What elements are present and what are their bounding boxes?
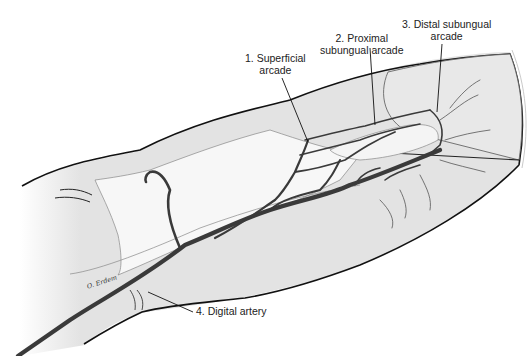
label-digital-artery: 4. Digital artery: [196, 305, 267, 317]
label-1-line1: 1. Superficial: [245, 52, 306, 64]
label-superficial-arcade: 1. Superficial arcade: [245, 52, 306, 76]
label-2-line2: subungual arcade: [320, 44, 403, 56]
label-3-line2: arcade: [402, 30, 491, 42]
label-3-line1: 3. Distal subungual: [402, 18, 491, 30]
label-2-line1: 2. Proximal: [320, 32, 403, 44]
label-proximal-subungual-arcade: 2. Proximal subungual arcade: [320, 32, 403, 56]
label-1-line2: arcade: [245, 64, 306, 76]
label-distal-subungual-arcade: 3. Distal subungual arcade: [402, 18, 491, 42]
label-4-line1: 4. Digital artery: [196, 305, 267, 317]
